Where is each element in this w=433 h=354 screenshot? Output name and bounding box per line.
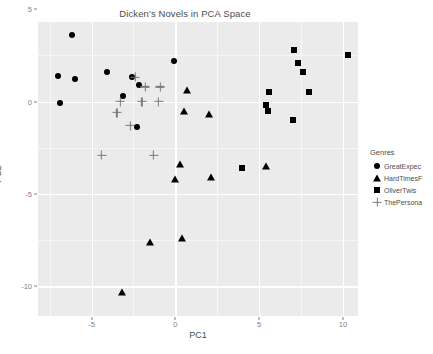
gridline-y-minor xyxy=(38,55,358,56)
y-tick-mark xyxy=(34,101,37,102)
legend-item-label: HardTimesF xyxy=(384,175,422,182)
scatter-plot-figure: Dicken's Novels in PCA Space 50-5-10-505… xyxy=(0,0,433,354)
legend-item-greatexpec[interactable]: GreatExpec xyxy=(370,160,432,172)
x-tick-label: 0 xyxy=(160,320,190,329)
data-point-triangle xyxy=(176,161,184,168)
data-point-plus xyxy=(154,97,163,106)
x-axis-label: PC1 xyxy=(38,330,358,340)
y-axis-label: PC2 xyxy=(0,165,3,183)
data-point-plus xyxy=(126,121,135,130)
y-tick-mark xyxy=(34,193,37,194)
gridline-y-minor xyxy=(38,240,358,241)
gridline-y-minor xyxy=(38,148,358,149)
gridline-x-minor xyxy=(50,22,51,316)
x-tick-mark xyxy=(91,317,92,320)
x-tick-label: -5 xyxy=(77,320,107,329)
data-point-square xyxy=(345,52,351,58)
gridline-x-major xyxy=(343,22,344,316)
data-point-square xyxy=(300,69,306,75)
gridline-x-minor xyxy=(301,22,302,316)
legend-item-olivertwis[interactable]: OliverTwis xyxy=(370,184,432,196)
data-point-circle xyxy=(171,58,177,64)
data-point-circle xyxy=(104,69,110,75)
data-point-circle xyxy=(55,73,61,79)
x-tick-label: 10 xyxy=(328,320,358,329)
data-point-triangle xyxy=(118,288,126,295)
data-point-circle xyxy=(57,100,63,106)
data-point-triangle xyxy=(178,235,186,242)
gridline-y-major xyxy=(38,194,358,195)
data-point-circle xyxy=(72,76,78,82)
legend-item-hardtimesf[interactable]: HardTimesF xyxy=(370,172,432,184)
plot-panel xyxy=(38,22,358,316)
y-tick-mark xyxy=(34,286,37,287)
data-point-circle xyxy=(69,32,75,38)
data-point-triangle xyxy=(205,111,213,118)
data-point-circle xyxy=(134,124,140,130)
gridline-x-major xyxy=(175,22,176,316)
y-tick-label: -10 xyxy=(0,282,32,291)
legend-item-thepersona[interactable]: ThePersona xyxy=(370,196,432,208)
data-point-plus xyxy=(112,108,121,117)
legend-key-plus-icon xyxy=(370,196,384,208)
y-tick-label: -5 xyxy=(0,189,32,198)
data-point-plus xyxy=(137,97,146,106)
data-point-triangle xyxy=(180,107,188,114)
data-point-square xyxy=(306,89,312,95)
gridline-y-major xyxy=(38,286,358,287)
y-tick-mark xyxy=(34,9,37,10)
y-tick-label: 0 xyxy=(0,97,32,106)
legend-key-triangle-icon xyxy=(370,172,384,184)
legend-key-circle-icon xyxy=(370,160,384,172)
data-point-plus xyxy=(131,73,140,82)
data-point-square xyxy=(239,165,245,171)
legend-title: Genres xyxy=(370,148,432,157)
data-point-triangle xyxy=(183,87,191,94)
data-point-square xyxy=(266,89,272,95)
gridline-y-major xyxy=(38,102,358,103)
gridline-x-minor xyxy=(133,22,134,316)
legend-item-label: GreatExpec xyxy=(384,163,421,170)
x-tick-mark xyxy=(259,317,260,320)
data-point-plus xyxy=(156,82,165,91)
chart-title: Dicken's Novels in PCA Space xyxy=(0,8,370,19)
data-point-plus xyxy=(141,82,150,91)
data-point-triangle xyxy=(171,176,179,183)
legend-items: GreatExpecHardTimesFOliverTwisThePersona xyxy=(370,160,432,208)
data-point-plus xyxy=(116,97,125,106)
gridline-x-minor xyxy=(217,22,218,316)
legend-item-label: OliverTwis xyxy=(384,187,416,194)
data-point-triangle xyxy=(373,175,381,182)
x-tick-mark xyxy=(175,317,176,320)
gridline-x-major xyxy=(259,22,260,316)
data-point-square xyxy=(295,60,301,66)
data-point-square xyxy=(265,108,271,114)
gridline-x-major xyxy=(92,22,93,316)
data-point-triangle xyxy=(146,239,154,246)
data-point-square xyxy=(374,187,380,193)
legend-item-label: ThePersona xyxy=(384,199,422,206)
legend-key-square-icon xyxy=(370,184,384,196)
x-tick-label: 5 xyxy=(244,320,274,329)
data-point-triangle xyxy=(262,163,270,170)
data-point-square xyxy=(263,102,269,108)
data-point-circle xyxy=(374,163,380,169)
data-point-plus xyxy=(373,198,382,207)
data-point-triangle xyxy=(207,174,215,181)
data-point-plus xyxy=(149,151,158,160)
data-point-square xyxy=(290,117,296,123)
data-point-plus xyxy=(97,151,106,160)
y-tick-label: 5 xyxy=(0,5,32,14)
x-tick-mark xyxy=(342,317,343,320)
data-point-square xyxy=(291,47,297,53)
legend: Genres GreatExpecHardTimesFOliverTwisThe… xyxy=(370,148,432,208)
